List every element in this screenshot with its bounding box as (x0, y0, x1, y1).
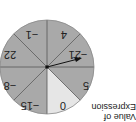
label-5: 5 (83, 80, 89, 92)
label-neg15: −15 (21, 100, 40, 112)
caption-line2: Expression (92, 102, 136, 112)
caption-line1: Value of (92, 112, 136, 122)
label-4: 4 (61, 29, 67, 41)
label-0: 0 (60, 100, 66, 112)
caption: Value of Expression (92, 92, 136, 122)
label-22: 22 (4, 49, 16, 61)
spinner-pivot (45, 65, 49, 69)
label-neg8: −8 (4, 80, 17, 92)
label-neg1: −1 (26, 29, 39, 41)
